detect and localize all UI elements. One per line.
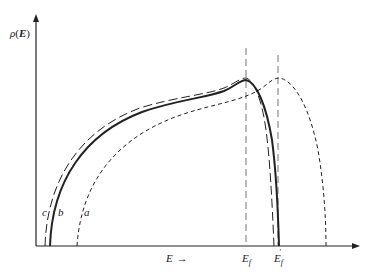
x-axis-label: E→ (165, 252, 188, 264)
curve-a (77, 78, 326, 246)
curve-c (45, 78, 274, 246)
curve-b (50, 80, 279, 246)
curve-b-label: b (58, 206, 64, 218)
curve-c-label: c (42, 206, 47, 218)
ef-prime-label: Ef′ (273, 248, 285, 267)
y-axis-arrow-icon (33, 14, 39, 22)
y-axis-label: ρ(E) (9, 27, 30, 40)
curve-a-label: a (84, 206, 90, 218)
ef-label: Ef (241, 252, 253, 267)
density-of-states-diagram: ρ(E) E→ Ef Ef′ c b a (0, 0, 371, 272)
x-axis-arrow-icon (352, 243, 360, 249)
axes (33, 14, 360, 249)
